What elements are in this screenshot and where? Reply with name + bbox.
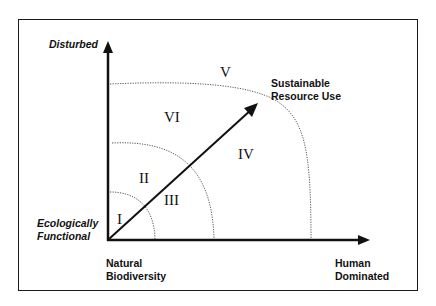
arrow-label-sustainable: Sustainable [271, 77, 330, 90]
region-label-v: V [220, 65, 231, 80]
region-label-iii: III [164, 193, 179, 208]
region-label-vi: VI [164, 110, 180, 125]
x-axis-label-dominated: Dominated [335, 270, 389, 283]
x-axis-label-biodiversity: Biodiversity [106, 270, 166, 283]
origin-label-ecologically: Ecologically [37, 217, 98, 230]
y-axis-label-disturbed: Disturbed [49, 38, 98, 51]
region-label-i: I [117, 212, 122, 227]
x-axis-arrowhead-icon [358, 235, 370, 245]
x-axis-label-natural: Natural [106, 257, 142, 270]
x-axis-label-human: Human [335, 257, 371, 270]
region-label-ii: II [139, 171, 149, 186]
sustainable-use-arrow [109, 109, 252, 239]
region-label-iv: IV [238, 147, 254, 162]
boundary-curve-large [110, 83, 311, 239]
arrow-label-resource-use: Resource Use [271, 90, 341, 103]
y-axis-arrowhead-icon [103, 41, 113, 53]
origin-label-functional: Functional [37, 230, 90, 243]
